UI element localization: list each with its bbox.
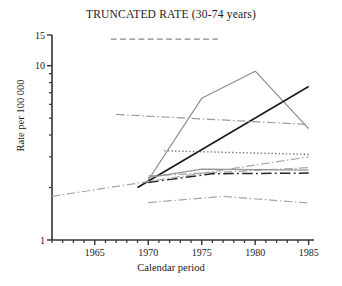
series-dashdot-gray-upper	[116, 114, 308, 124]
x-tick-label: 1965	[85, 247, 105, 258]
series-dotted	[164, 151, 308, 155]
series-dashdot-gray-lower	[148, 196, 308, 203]
plot-area: 1101519651970197519801985	[0, 0, 342, 286]
series-rising-black	[138, 86, 309, 187]
y-tick-label: 15	[35, 30, 45, 41]
y-tick-label: 1	[40, 235, 45, 246]
x-tick-label: 1980	[245, 247, 265, 258]
chart-figure: TRUNCATED RATE (30-74 years) Rate per 10…	[0, 0, 342, 286]
y-tick-label: 10	[35, 60, 45, 71]
series-peaked-gray	[148, 71, 308, 180]
x-tick-label: 1970	[138, 247, 158, 258]
x-tick-label: 1975	[192, 247, 212, 258]
x-tick-label: 1985	[299, 247, 319, 258]
